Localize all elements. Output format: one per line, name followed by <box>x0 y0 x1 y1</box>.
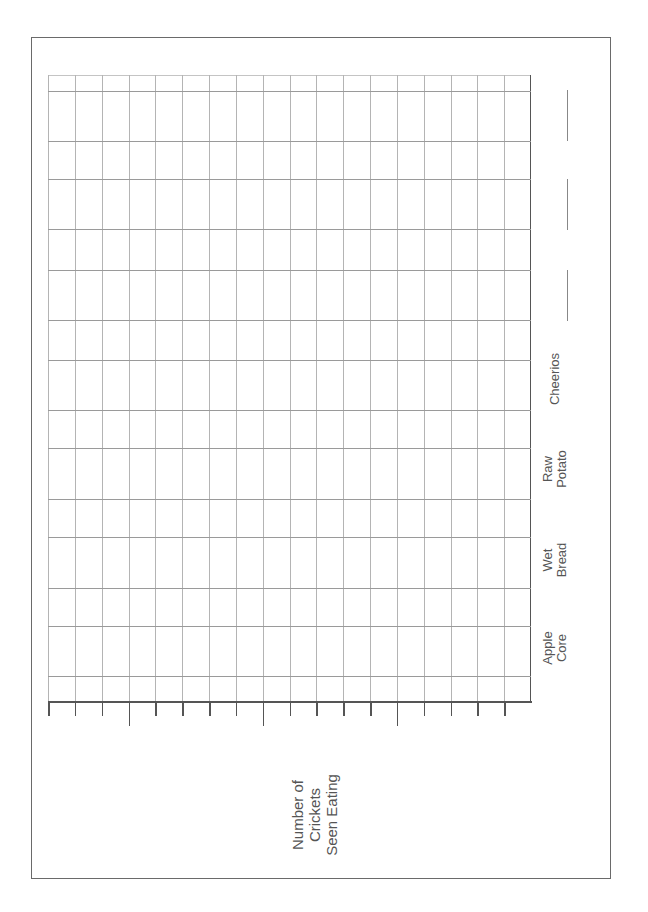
category-label-apple-core: Apple Core <box>541 623 569 673</box>
grid-horizontal-line <box>48 676 531 677</box>
grid-horizontal-line <box>48 448 531 449</box>
minor-tick <box>48 702 50 716</box>
grid-horizontal-line <box>48 141 531 142</box>
grid-vertical-line <box>316 75 317 702</box>
grid-vertical-line <box>343 75 344 702</box>
grid-vertical-line <box>155 75 156 702</box>
minor-tick <box>451 702 453 716</box>
minor-tick <box>236 702 238 716</box>
grid-vertical-line <box>102 75 103 702</box>
minor-tick <box>504 702 506 716</box>
major-tick <box>129 702 131 726</box>
major-tick <box>397 702 399 726</box>
grid-horizontal-line <box>48 537 531 538</box>
grid-horizontal-line <box>48 320 531 321</box>
category-label-cheerios: Cheerios <box>548 349 562 409</box>
grid-horizontal-line <box>48 626 531 627</box>
minor-tick <box>477 702 479 716</box>
chart-grid <box>48 75 531 702</box>
minor-tick <box>102 702 104 716</box>
category-label-raw-potato: Raw Potato <box>541 439 569 499</box>
minor-tick <box>424 702 426 716</box>
grid-horizontal-line <box>48 91 531 92</box>
grid-vertical-line <box>397 75 398 702</box>
grid-vertical-line <box>182 75 183 702</box>
grid-horizontal-line <box>48 360 531 361</box>
blank-category-line-2 <box>567 179 568 230</box>
minor-tick <box>290 702 292 716</box>
grid-vertical-line <box>370 75 371 702</box>
grid-vertical-line <box>290 75 291 702</box>
grid-horizontal-line <box>48 229 531 230</box>
major-tick <box>263 702 265 726</box>
blank-category-line-3 <box>567 90 568 141</box>
grid-vertical-line <box>504 75 505 702</box>
grid-vertical-line <box>75 75 76 702</box>
grid-vertical-line <box>477 75 478 702</box>
blank-category-line-1 <box>567 270 568 321</box>
grid-horizontal-line <box>48 270 531 271</box>
grid-vertical-line <box>209 75 210 702</box>
value-axis-title: Number of Crickets Seen Eating <box>289 774 340 856</box>
grid-vertical-line <box>129 75 130 702</box>
category-label-wet-bread: Wet Bread <box>541 535 569 585</box>
grid-horizontal-line <box>48 588 531 589</box>
grid-horizontal-line <box>48 179 531 180</box>
minor-tick <box>343 702 345 716</box>
grid-vertical-line <box>48 75 49 702</box>
grid-horizontal-line <box>48 410 531 411</box>
minor-tick <box>316 702 318 716</box>
category-axis-line <box>530 75 532 702</box>
minor-tick <box>75 702 77 716</box>
grid-horizontal-line <box>48 499 531 500</box>
grid-vertical-line <box>451 75 452 702</box>
minor-tick <box>209 702 211 716</box>
grid-vertical-line <box>263 75 264 702</box>
grid-vertical-line <box>424 75 425 702</box>
minor-tick <box>155 702 157 716</box>
grid-vertical-line <box>236 75 237 702</box>
minor-tick <box>370 702 372 716</box>
minor-tick <box>182 702 184 716</box>
